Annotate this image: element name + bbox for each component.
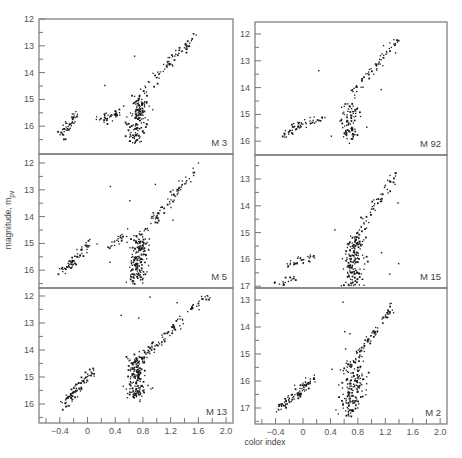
y-tick-label: 16 [24,121,34,131]
y-tick-label: 13 [24,318,34,328]
y-tick-label: 16 [240,136,250,146]
y-tick-label: 14 [24,345,34,355]
x-tick-label: 0.8 [352,427,365,437]
panel-m2: 1314151617M 2−0.400.40.81.21.62.0 [240,288,447,437]
x-tick-label: 1.2 [379,427,392,437]
panel-m92: 1213141516M 92 [240,22,447,155]
x-tick-label: 0.4 [324,427,337,437]
cluster-name-label: M 5 [211,271,227,282]
svg-text:magnitude, mpv: magnitude, mpv [3,190,16,249]
scatter-points [276,302,394,418]
panel-m3: 1213141516M 3 [24,14,233,154]
x-axis: −0.400.40.81.21.62.0 [46,417,232,436]
y-tick-label: 15 [24,372,34,382]
cluster-name-label: M 2 [425,407,441,418]
x-tick-label: 0 [85,426,90,436]
scatter-points [282,39,400,144]
panel-m15: 1314151617M 15 [240,155,447,291]
x-axis: −0.400.40.81.21.62.0 [262,418,447,437]
y-tick-label: 15 [240,228,250,238]
y-tick-label: 13 [240,174,250,184]
y-axis-title: magnitude, mpv [3,190,16,249]
y-tick-label: 14 [24,68,34,78]
y-tick-label: 16 [240,254,250,264]
y-tick-label: 14 [240,201,250,211]
y-tick-label: 14 [240,322,250,332]
panel-frame [255,288,447,424]
panel-frame [39,288,233,423]
y-tick-label: 13 [240,56,250,66]
cluster-name-label: M 92 [420,138,441,149]
panels-group: 1213141516M 31213141516M 921213141516M 5… [24,14,447,437]
scatter-points [58,162,200,284]
panel-m13: 1213141516M 13−0.400.40.81.21.62.0 [24,288,233,436]
y-tick-label: 16 [24,265,34,275]
x-tick-label: −0.4 [267,427,285,437]
y-tick-label: 15 [240,349,250,359]
x-tick-label: 1.6 [406,427,419,437]
scatter-points [274,172,400,286]
x-tick-label: 0.4 [109,426,122,436]
y-tick-label: 16 [240,376,250,386]
y-tick-label: 12 [24,291,34,301]
y-tick-label: 12 [24,14,34,24]
scatter-points [60,295,211,411]
x-tick-label: 1.2 [164,426,177,436]
y-tick-label: 17 [240,403,250,413]
panel-m5: 1213141516M 5 [24,154,233,288]
cluster-name-label: M 3 [211,137,227,148]
scatter-points [57,33,197,144]
x-tick-label: 1.6 [192,426,205,436]
cluster-name-label: M 13 [206,406,227,417]
y-tick-label: 15 [24,94,34,104]
x-axis-title: color index [244,437,286,447]
y-tick-label: 16 [24,399,34,409]
y-tick-label: 17 [240,281,250,291]
x-tick-label: 2.0 [434,427,447,437]
x-tick-label: 2.0 [220,426,233,436]
y-tick-label: 13 [24,185,34,195]
y-tick-label: 12 [24,158,34,168]
y-tick-label: 15 [24,238,34,248]
cluster-name-label: M 15 [420,271,441,282]
y-tick-label: 14 [240,83,250,93]
y-tick-label: 13 [240,295,250,305]
panel-frame [39,19,233,154]
cmd-figure: 1213141516M 31213141516M 921213141516M 5… [0,0,462,458]
y-tick-label: 15 [240,109,250,119]
x-tick-label: 0.8 [137,426,150,436]
y-tick-label: 14 [24,212,34,222]
x-tick-label: 0 [300,427,305,437]
x-tick-label: −0.4 [51,426,69,436]
y-tick-label: 12 [240,29,250,39]
y-tick-label: 13 [24,41,34,51]
